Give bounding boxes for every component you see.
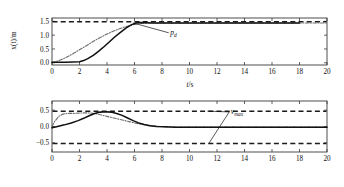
- x-tick-label: 0: [50, 155, 54, 163]
- series-reference-trajectory: [52, 23, 327, 63]
- velocity-plot-svg: 02468101214161820−0.50.00.5vmax: [0, 95, 344, 187]
- y-tick-label: 1.0: [40, 32, 49, 40]
- x-tick-label: 14: [241, 155, 249, 163]
- annotation-label: vmax: [231, 107, 244, 117]
- y-tick-label: 1.5: [40, 18, 49, 26]
- annotation-label: pd: [169, 28, 177, 38]
- series-actual-velocity: [52, 112, 327, 128]
- x-tick-label: 10: [186, 68, 194, 76]
- position-panel: x(t)/m t/s 024681012141618200.00.51.01.5…: [0, 0, 344, 96]
- x-tick-label: 0: [50, 68, 54, 76]
- annotation-leader-line: [133, 23, 169, 33]
- velocity-panel: ẋ(t)/(m/s) t/s 02468101214161820−0.50.0…: [0, 95, 344, 187]
- series-reference-velocity: [52, 113, 327, 127]
- x-tick-label: 16: [268, 155, 276, 163]
- x-tick-label: 20: [323, 68, 331, 76]
- x-tick-label: 4: [105, 155, 109, 163]
- x-tick-label: 4: [105, 68, 109, 76]
- x-tick-label: 12: [213, 155, 221, 163]
- y-tick-label: 0.0: [40, 59, 49, 67]
- figure-container: x(t)/m t/s 024681012141618200.00.51.01.5…: [0, 0, 344, 187]
- y-tick-label: 0.5: [40, 107, 49, 115]
- x-tick-label: 20: [323, 155, 331, 163]
- x-tick-label: 2: [78, 68, 82, 76]
- x-tick-label: 12: [213, 68, 221, 76]
- y-tick-label: 0.5: [40, 46, 49, 54]
- position-plot-svg: 024681012141618200.00.51.01.5pd: [0, 0, 344, 96]
- x-tick-label: 14: [241, 68, 249, 76]
- x-tick-label: 6: [133, 68, 137, 76]
- x-tick-label: 18: [296, 155, 304, 163]
- x-tick-label: 6: [133, 155, 137, 163]
- series-actual-trajectory: [52, 22, 300, 62]
- y-tick-label: −0.5: [36, 139, 49, 147]
- x-tick-label: 10: [186, 155, 194, 163]
- x-tick-label: 16: [268, 68, 276, 76]
- x-tick-label: 8: [160, 68, 164, 76]
- x-tick-label: 8: [160, 155, 164, 163]
- x-tick-label: 2: [78, 155, 82, 163]
- x-tick-label: 18: [296, 68, 304, 76]
- y-tick-label: 0.0: [40, 123, 49, 131]
